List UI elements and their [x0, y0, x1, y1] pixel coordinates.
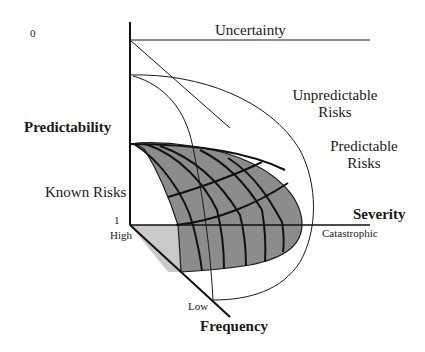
predictable-risks-line-2: Risks	[324, 156, 404, 171]
predictability-axis-label: Predictability	[24, 120, 111, 135]
frequency-low-label: Low	[188, 301, 208, 312]
unpredictable-risks-line-2: Risks	[285, 105, 385, 120]
uncertainty-label: Uncertainty	[215, 23, 286, 38]
severity-axis-label: Severity	[353, 207, 405, 222]
known-risks-label: Known Risks	[45, 185, 126, 200]
predictability-bottom-tick: 1	[114, 215, 120, 226]
frequency-axis-label: Frequency	[200, 319, 268, 334]
predictable-risks-line-1: Predictable	[324, 139, 404, 154]
predictable-risks-label: Predictable Risks	[324, 139, 404, 171]
predictability-top-tick: 0	[30, 28, 36, 39]
risk-diagram-canvas	[0, 0, 425, 352]
unpredictable-risks-line-1: Unpredictable	[285, 88, 385, 103]
frequency-high-label: High	[110, 230, 132, 241]
unpredictable-risks-label: Unpredictable Risks	[285, 88, 385, 120]
severity-catastrophic-label: Catastrophic	[322, 228, 378, 239]
uncertainty-diagonal	[130, 40, 230, 128]
